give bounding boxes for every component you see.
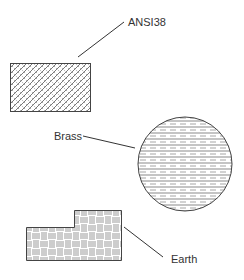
earth-shape[interactable] — [27, 211, 122, 261]
hatch-diagram — [0, 0, 244, 280]
ansi38-label: ANSI38 — [128, 17, 166, 28]
ansi38-leader — [78, 22, 124, 57]
earth-label: Earth — [171, 254, 197, 265]
brass-leader — [83, 136, 135, 148]
brass-shape[interactable] — [138, 117, 232, 211]
ansi38-shape[interactable] — [11, 64, 91, 112]
brass-label: Brass — [54, 131, 82, 142]
earth-leader — [124, 227, 163, 257]
